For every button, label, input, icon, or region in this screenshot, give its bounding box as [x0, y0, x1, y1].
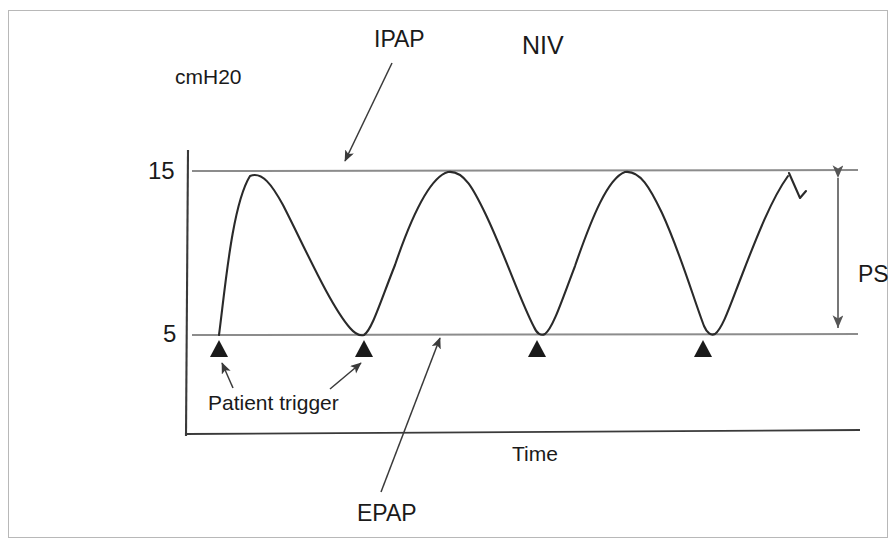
y-axis-units-label: cmH20	[175, 66, 242, 87]
trigger-marker	[355, 340, 373, 357]
niv-pressure-waveform-figure: cmH20 NIV 15 5 IPAP EPAP PS Time Patient…	[0, 0, 896, 557]
trigger-marker	[528, 340, 546, 357]
patient-trigger-leader-arrow	[330, 363, 361, 389]
waveform-truncation-stroke	[789, 173, 806, 198]
figure-title: NIV	[522, 33, 564, 58]
ipap-leader-arrow	[345, 63, 392, 161]
epap-leader-arrow	[381, 338, 440, 492]
patient-trigger-label: Patient trigger	[208, 392, 339, 413]
waveform-canvas	[0, 0, 896, 557]
ipap-reference-line	[192, 170, 858, 171]
epap-reference-line	[192, 334, 858, 335]
ipap-label: IPAP	[374, 28, 425, 51]
trigger-marker	[210, 340, 228, 357]
patient-trigger-leader-arrow	[222, 363, 233, 388]
pressure-support-label: PS	[858, 263, 889, 286]
y-tick-label-5: 5	[163, 322, 176, 346]
x-axis-line	[186, 430, 860, 434]
y-tick-label-15: 15	[148, 159, 175, 183]
epap-label: EPAP	[357, 502, 417, 525]
x-axis-label: Time	[512, 443, 558, 464]
pressure-waveform-curve	[219, 172, 788, 335]
trigger-marker	[694, 340, 712, 357]
y-axis-line	[186, 150, 188, 436]
